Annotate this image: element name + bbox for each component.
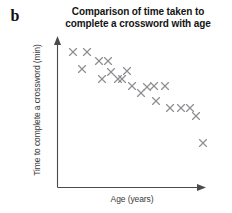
data-point-marker <box>119 76 126 83</box>
data-point-marker <box>96 58 103 65</box>
x-axis-arrowhead <box>197 184 206 191</box>
data-point-marker <box>105 58 112 65</box>
data-point-marker <box>193 113 200 120</box>
data-point-marker <box>151 83 158 90</box>
data-point-marker <box>187 105 194 112</box>
data-point-marker <box>144 84 151 91</box>
data-point-marker <box>129 83 136 90</box>
data-point-marker <box>99 76 106 83</box>
data-point-marker <box>84 49 91 56</box>
x-axis-label: Age (years) <box>57 194 207 204</box>
y-axis-label: Time to complete a crossword (min) <box>32 30 42 190</box>
data-point-marker <box>124 68 131 75</box>
data-point-marker <box>200 140 207 147</box>
figure-panel: b Comparison of time taken to complete a… <box>0 0 232 213</box>
data-point-marker <box>167 105 174 112</box>
data-point-marker <box>153 98 160 105</box>
y-axis <box>54 36 61 188</box>
x-axis <box>58 184 207 191</box>
y-axis-arrowhead <box>54 36 61 45</box>
data-point-marker <box>162 83 169 90</box>
data-point-marker <box>115 76 122 83</box>
data-point-marker <box>79 66 86 73</box>
data-point-marker <box>70 49 77 56</box>
data-point-marker <box>108 69 115 76</box>
data-point-marker <box>178 105 185 112</box>
data-point-group <box>70 49 207 147</box>
